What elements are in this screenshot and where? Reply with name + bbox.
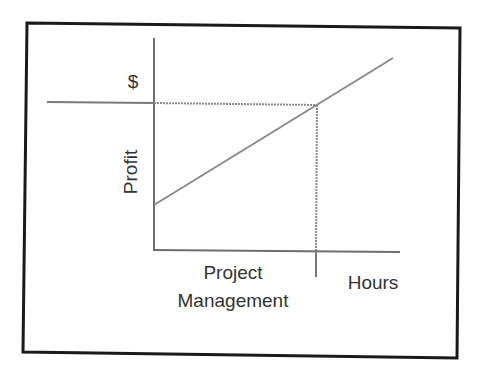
x-axis-label-line1: Project <box>203 262 263 283</box>
x-axis-label-line2: Management <box>178 290 290 311</box>
y-axis-label: Profit <box>120 149 141 194</box>
dollar-level-dotted-line <box>154 103 317 105</box>
diagram-canvas: $ Profit Project Management Hours <box>0 0 483 373</box>
x-axis <box>153 250 400 252</box>
dollar-level-line <box>47 102 154 103</box>
x-unit-label: Hours <box>348 272 399 293</box>
hours-reference-line <box>316 105 317 250</box>
profit-vs-hours-diagram: $ Profit Project Management Hours <box>0 0 483 373</box>
y-unit-label: $ <box>128 71 139 92</box>
profit-line <box>154 58 393 205</box>
